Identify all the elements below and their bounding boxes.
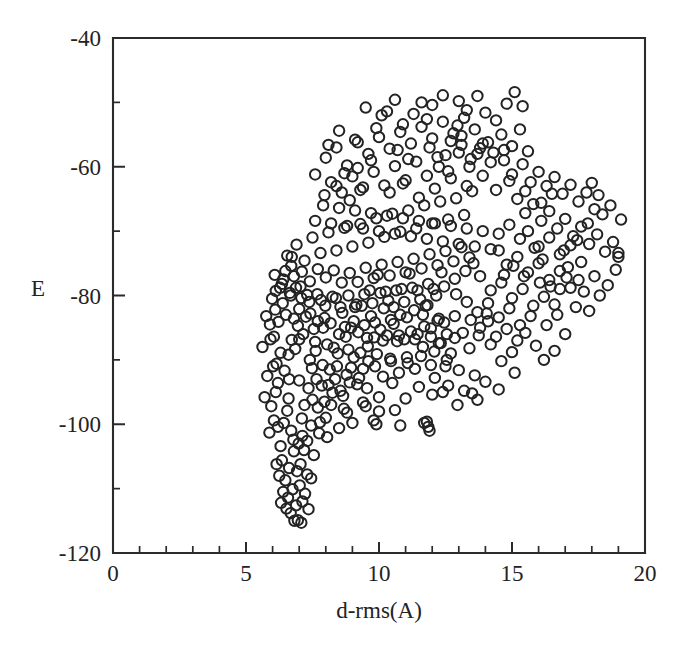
plot-canvas: 05101520 -40-60-80-100-120 d-rms(A) E <box>0 0 675 650</box>
x-tick-label: 20 <box>634 561 657 586</box>
x-tick-label: 15 <box>501 561 524 586</box>
y-tick-label: -40 <box>70 26 101 51</box>
x-tick-label: 0 <box>107 561 119 586</box>
x-tick-label: 10 <box>368 561 391 586</box>
y-axis-title: E <box>31 276 45 301</box>
x-axis-title: d-rms(A) <box>336 598 422 623</box>
y-tick-label: -80 <box>70 284 101 309</box>
y-tick-label: -100 <box>59 412 101 437</box>
scatter-plot-figure: 05101520 -40-60-80-100-120 d-rms(A) E <box>0 0 675 650</box>
y-tick-label: -60 <box>70 155 101 180</box>
x-tick-label: 5 <box>240 561 252 586</box>
y-tick-label: -120 <box>59 541 101 566</box>
